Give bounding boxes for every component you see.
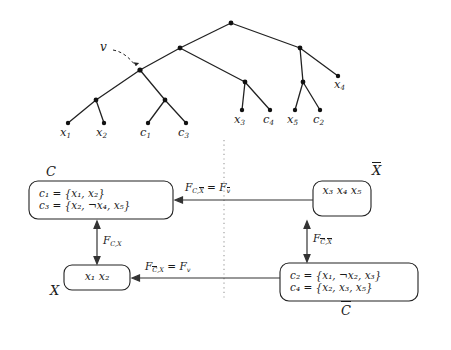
arrow-bottom-horizontal — [132, 275, 280, 281]
tree-node-v-label: v — [100, 41, 107, 53]
arrow-right-vertical-label: FC,X — [313, 233, 332, 245]
tree-node-right — [298, 46, 303, 51]
vars-left-line-1: x₁ x₂ — [85, 270, 110, 283]
clause-right-line-2: c₄ = {x₂, x₃, x₅} — [290, 282, 381, 293]
vars-right-line-1: x₃ x₄ — [323, 184, 348, 197]
vars-right-contents: x₃ x₄ x₅ — [313, 185, 371, 196]
clause-left-contents: c₁ = {x₁, x₂} c₃ = {x₂, ¬x₄, x₅} — [39, 186, 130, 212]
clause-right-line-1: c₂ = {x₁, ¬x₂, x₃} — [290, 270, 381, 281]
clause-left-outer-label: C — [46, 164, 56, 179]
tree-node-root — [229, 21, 234, 26]
arrow-top-horizontal-label: FC,X = Fv — [185, 182, 230, 194]
leaf-label-c3: c3 — [178, 127, 189, 139]
tree-node-x-pair — [94, 98, 99, 103]
tree-node-v — [137, 67, 142, 72]
vars-left-contents: x₁ x₂ — [64, 271, 130, 282]
tree-node-mid — [243, 80, 248, 85]
figure-canvas: x1 x2 c1 c3 x3 c4 x5 c2 x4 v C c₁ = {x₁,… — [0, 0, 451, 350]
vars-left-outer-label: X — [50, 284, 59, 297]
tree-leaf-c1 — [146, 121, 150, 125]
arrow-right-vertical — [304, 221, 310, 262]
leaf-label-c4: c4 — [263, 114, 274, 126]
v-pointer-arrow — [113, 50, 139, 66]
leaf-label-c1: c1 — [140, 127, 151, 139]
arrow-top-horizontal — [175, 197, 313, 203]
figure-vector-layer — [0, 0, 451, 350]
vars-right-line-2: x₅ — [351, 184, 362, 197]
leaf-label-c2: c2 — [313, 114, 324, 126]
clause-left-line-2: c₃ = {x₂, ¬x₄, x₅} — [39, 200, 130, 211]
vars-right-outer-label: X — [372, 163, 381, 178]
leaf-label-x3: x3 — [234, 114, 245, 126]
arrow-left-vertical-label: FC,X — [103, 235, 122, 247]
clause-right-outer-label: C — [341, 303, 351, 318]
clause-right-contents: c₂ = {x₁, ¬x₂, x₃} c₄ = {x₂, x₃, x₅} — [290, 268, 381, 294]
tree-node-right-inner — [301, 80, 306, 85]
leaf-label-x1: x1 — [60, 127, 71, 139]
tree-node-c-pair — [163, 98, 168, 103]
arrow-left-vertical — [94, 221, 100, 264]
leaf-label-x2: x2 — [96, 127, 107, 139]
arrow-bottom-horizontal-label: FC,X = Fv — [145, 261, 190, 273]
clause-left-line-1: c₁ = {x₁, x₂} — [39, 188, 130, 199]
tree-edges — [68, 23, 338, 123]
leaf-label-x5: x5 — [287, 114, 298, 126]
tree-node-left — [178, 46, 183, 51]
tree-leaf-c3 — [184, 121, 188, 125]
leaf-label-x4: x4 — [334, 79, 345, 91]
